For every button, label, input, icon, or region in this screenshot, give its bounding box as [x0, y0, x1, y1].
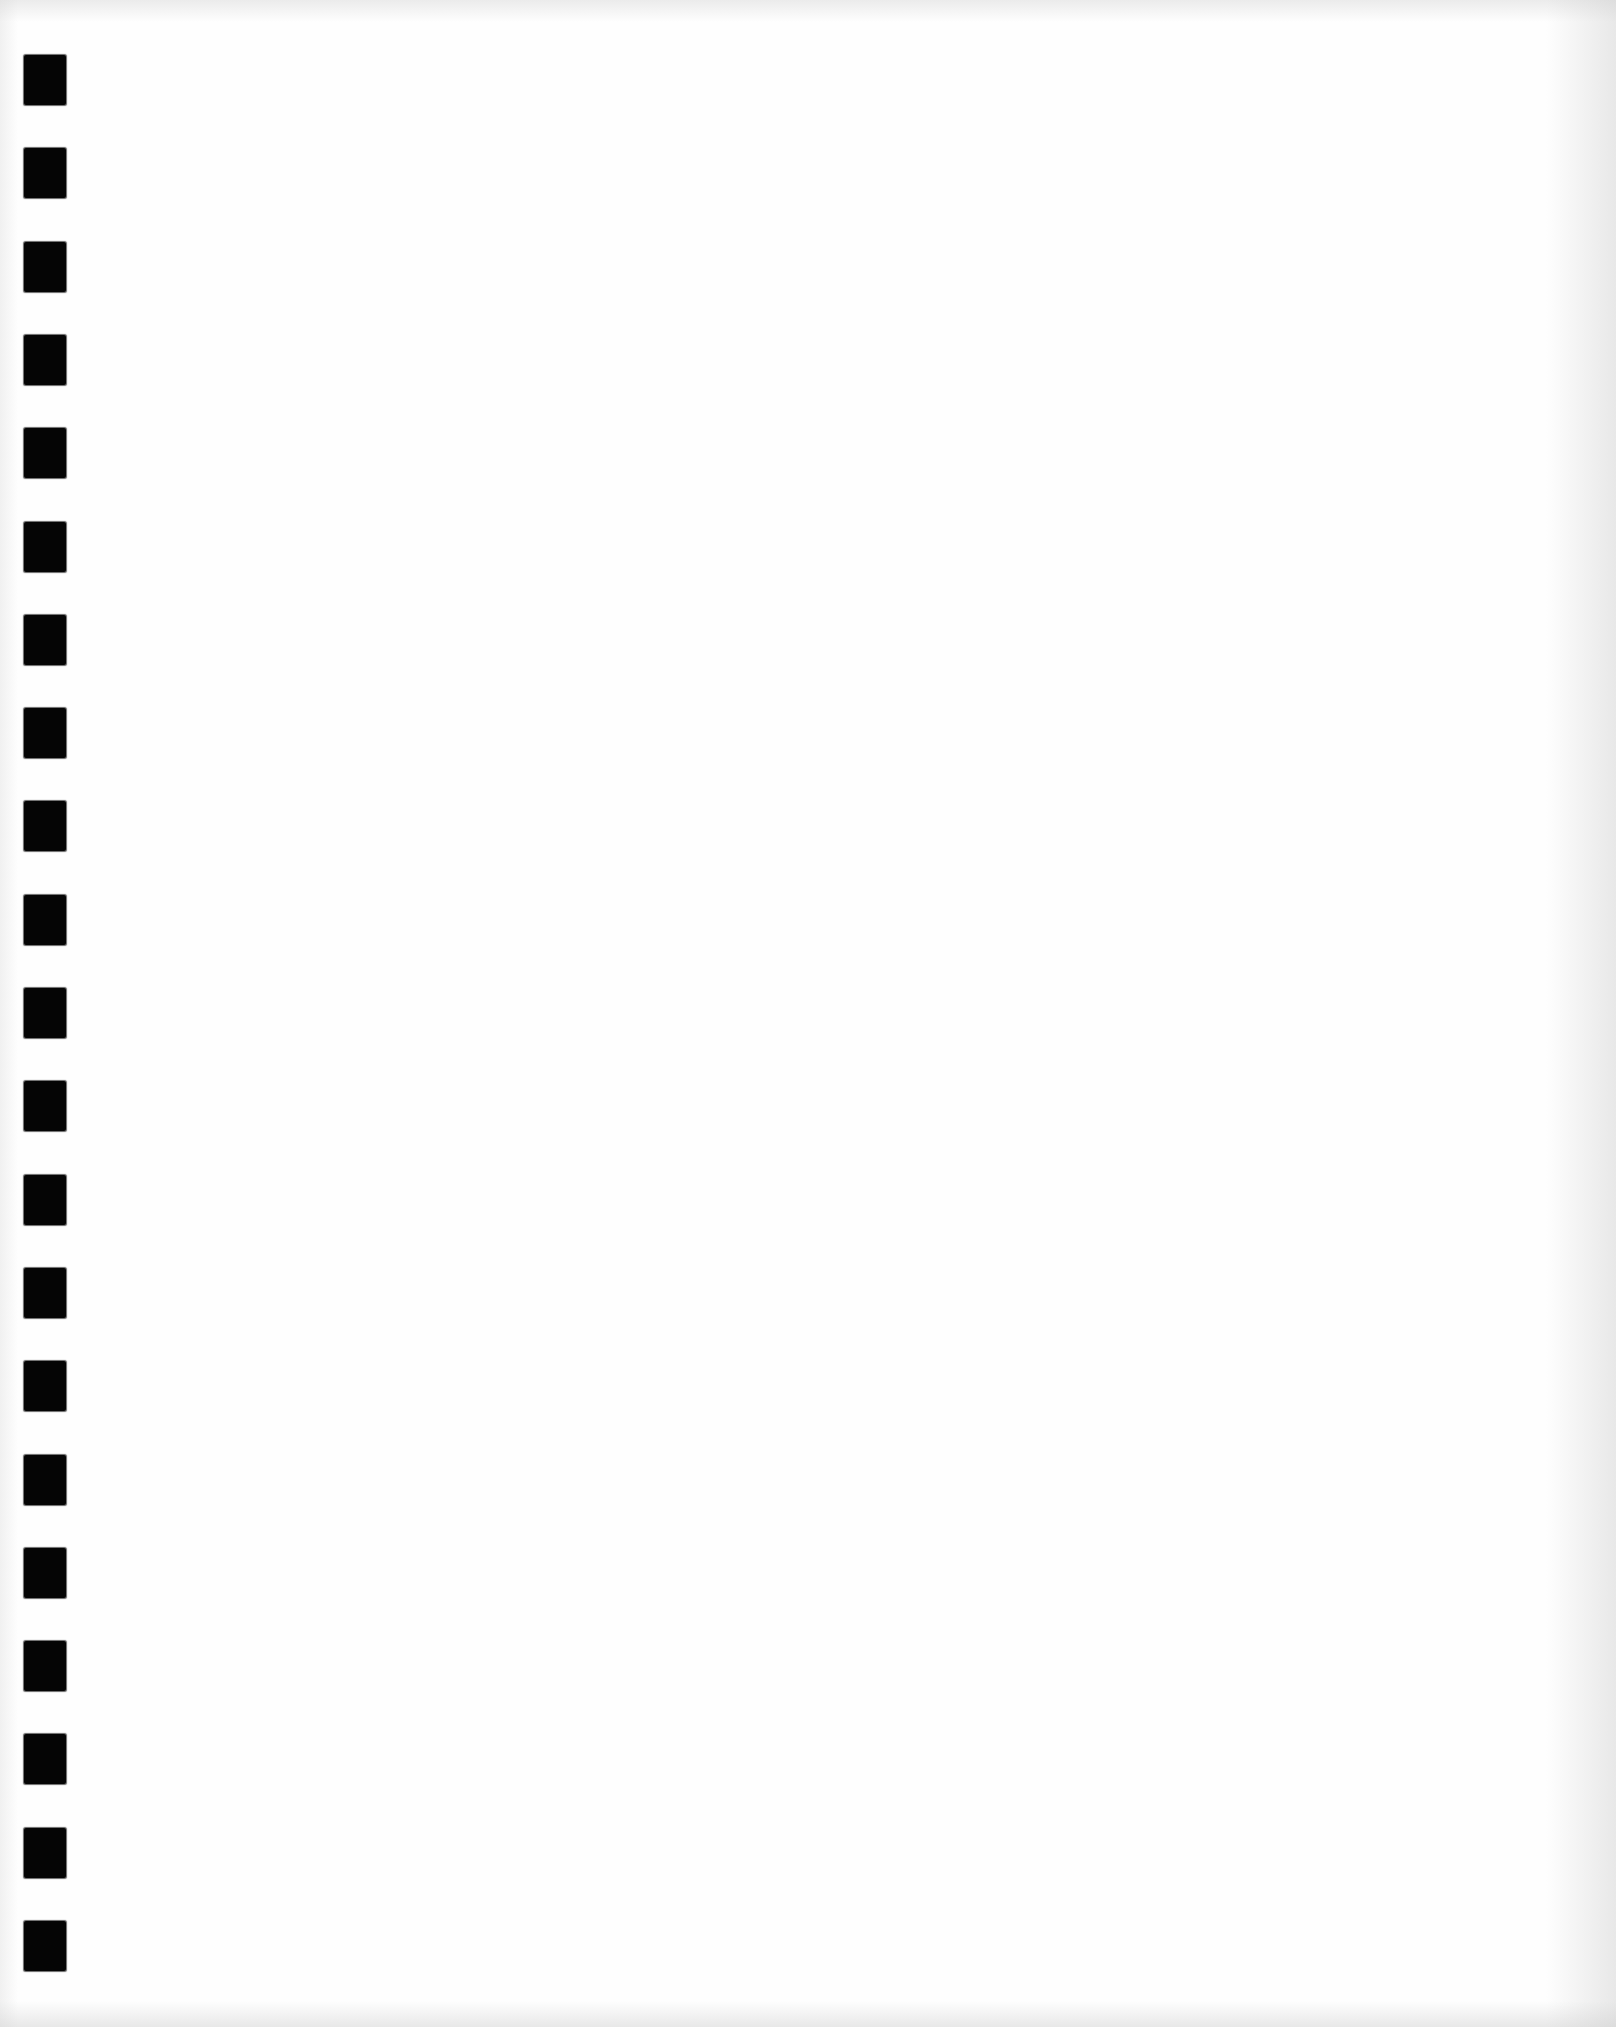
binding-hole	[24, 615, 66, 665]
binding-hole	[24, 1455, 66, 1505]
binding-hole	[24, 148, 66, 198]
binding-hole	[24, 1361, 66, 1411]
binding-hole	[24, 1921, 66, 1971]
binding-hole	[24, 1268, 66, 1318]
binding-hole	[24, 1081, 66, 1131]
binding-hole	[24, 1175, 66, 1225]
scan-edge-shade-bottom	[0, 2001, 1616, 2027]
binding-hole	[24, 1548, 66, 1598]
binding-hole	[24, 1828, 66, 1878]
scan-edge-shade-right	[1546, 0, 1616, 2027]
binding-hole	[24, 1734, 66, 1784]
binding-hole	[24, 801, 66, 851]
binding-hole	[24, 1641, 66, 1691]
binding-hole	[24, 335, 66, 385]
binding-hole	[24, 522, 66, 572]
scan-edge-shade-top	[0, 0, 1616, 22]
binding-hole-column	[0, 0, 80, 2027]
binding-hole	[24, 708, 66, 758]
binding-hole	[24, 895, 66, 945]
scanned-blank-page	[0, 0, 1616, 2027]
binding-hole	[24, 242, 66, 292]
binding-hole	[24, 428, 66, 478]
binding-hole	[24, 988, 66, 1038]
binding-hole	[24, 55, 66, 105]
